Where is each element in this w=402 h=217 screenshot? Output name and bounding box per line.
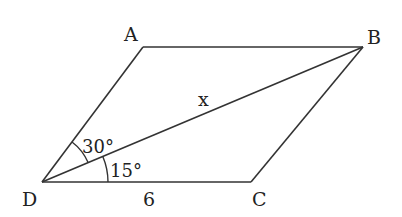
vertex-label-D: D (22, 188, 37, 210)
diagonal-label-x: x (198, 88, 209, 110)
angle-label-15: 15° (110, 160, 142, 181)
vertex-label-C: C (252, 188, 267, 210)
angle-arc-15 (103, 156, 108, 182)
geometry-diagram: A B C D x 6 30° 15° (0, 0, 402, 217)
vertex-label-B: B (367, 26, 381, 48)
vertex-label-A: A (123, 23, 138, 45)
diagonal-DB (42, 47, 363, 182)
parallelogram-ABCD (42, 47, 363, 182)
side-BC (251, 47, 363, 182)
side-DC-length-label: 6 (143, 188, 155, 210)
angle-label-30: 30° (82, 136, 114, 157)
